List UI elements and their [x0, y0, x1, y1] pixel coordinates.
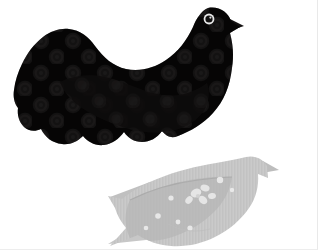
- gray-bird-layer: [0, 0, 318, 250]
- image-canvas: Two fabric bird cutouts arranged on a pl…: [0, 0, 318, 250]
